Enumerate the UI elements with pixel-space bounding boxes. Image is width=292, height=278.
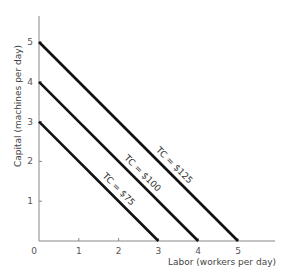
isocost-line-1 xyxy=(39,122,158,241)
isocost-line-3 xyxy=(39,42,238,241)
y-axis-title: Capital (machines per day) xyxy=(13,45,23,167)
x-tick-label: 1 xyxy=(76,246,82,256)
x-tick-label: 3 xyxy=(156,246,162,256)
y-tick-label: 3 xyxy=(27,117,33,127)
line-label-tc125: TC = $125 xyxy=(153,144,194,185)
isocost-chart: 01234512345Labor (workers per day)Capita… xyxy=(0,0,292,278)
y-tick-label: 2 xyxy=(27,156,33,166)
y-tick-label: 4 xyxy=(27,77,33,87)
y-tick-label: 1 xyxy=(27,196,33,206)
y-tick-label: 5 xyxy=(27,37,33,47)
x-axis-title: Labor (workers per day) xyxy=(168,257,276,267)
x-tick-label: 4 xyxy=(195,246,201,256)
isocost-lines xyxy=(39,42,238,241)
origin-label: 0 xyxy=(31,246,37,256)
x-tick-label: 5 xyxy=(235,246,241,256)
x-tick-label: 2 xyxy=(116,246,122,256)
